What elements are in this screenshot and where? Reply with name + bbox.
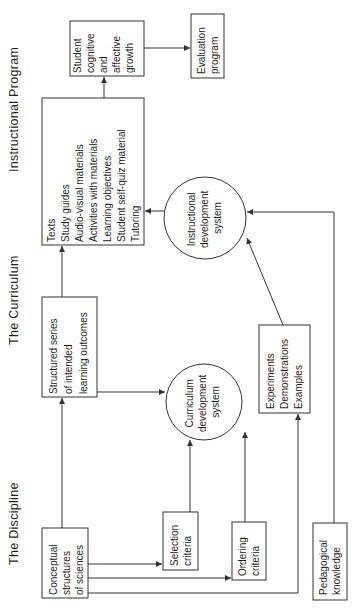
label-conceptual: Conceptual structures of sciences <box>48 542 85 595</box>
heading-instructional: Instructional Program <box>7 47 21 172</box>
label-texts: Texts Study guides Audio-visual material… <box>46 126 141 242</box>
label-pedagogical: Pedagogical knowledge <box>318 537 342 595</box>
diagram-canvas: The Discipline The Curriculum Instructio… <box>0 0 353 612</box>
label-instructional-system: Instructional development system <box>186 188 223 248</box>
arrow-pedagogical-instsys <box>247 212 334 523</box>
label-structured: Structured series of intended learning o… <box>48 312 89 394</box>
label-student-growth: Student cognitive and affective growth <box>72 31 135 73</box>
label-selection: Selection criteria <box>169 522 193 566</box>
label-evaluation: Evaluation program <box>196 25 220 74</box>
heading-curriculum: The Curriculum <box>7 255 21 345</box>
label-curriculum-system: Curriculum development system <box>184 372 221 432</box>
label-experiments: Experiments Demonstrations Examples <box>265 336 304 409</box>
label-ordering: Ordering criteria <box>237 534 261 576</box>
heading-discipline: The Discipline <box>7 482 21 565</box>
arrow-experiments-instsys <box>247 238 283 325</box>
